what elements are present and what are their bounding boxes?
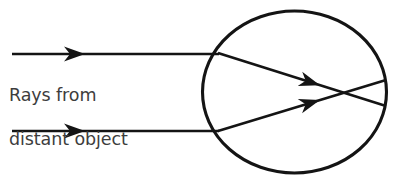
lower-refracted-ray-arrow-icon	[298, 93, 322, 113]
lower-refracted-ray	[218, 80, 386, 131]
eyeball-outline	[203, 11, 387, 173]
upper-refracted-ray	[218, 53, 386, 106]
figure-canvas: Rays from distant object	[0, 0, 400, 183]
caption-line-1: Rays from	[9, 84, 199, 106]
upper-refracted-ray-arrow-icon	[298, 72, 323, 93]
caption-rays-from-distant-object: Rays from distant object	[9, 62, 199, 172]
caption-line-2: distant object	[9, 128, 199, 150]
